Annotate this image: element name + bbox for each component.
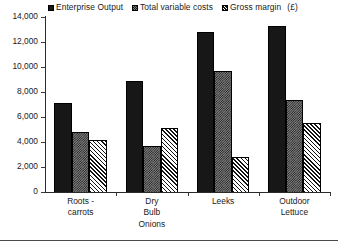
bar-group-bars bbox=[188, 17, 259, 192]
bar-chart: Enterprise Output Total variable costs G… bbox=[0, 0, 338, 248]
bar bbox=[143, 146, 161, 192]
plot-area bbox=[45, 17, 330, 192]
bar bbox=[54, 103, 72, 192]
bar-group bbox=[45, 17, 116, 192]
bar bbox=[214, 71, 232, 192]
y-axis-tick-mark bbox=[41, 192, 45, 193]
y-axis-tick-label: 0 bbox=[33, 186, 38, 197]
bar-group bbox=[116, 17, 187, 192]
legend-label: Total variable costs bbox=[140, 3, 213, 12]
bar bbox=[197, 32, 215, 192]
x-axis-category-label: Roots - carrots bbox=[45, 196, 116, 219]
bar bbox=[161, 128, 179, 192]
y-axis-tick-label: 2,000 bbox=[17, 161, 38, 172]
bar-group-bars bbox=[116, 17, 187, 192]
x-axis-tick-mark bbox=[330, 193, 331, 196]
bar bbox=[268, 26, 286, 192]
legend-item-total-variable-costs: Total variable costs bbox=[132, 3, 213, 12]
bar-group-bars bbox=[45, 17, 116, 192]
bar bbox=[286, 100, 304, 192]
y-axis-tick-label: 14,000 bbox=[12, 11, 38, 22]
bar bbox=[303, 123, 321, 192]
y-axis-tick-label: 8,000 bbox=[17, 86, 38, 97]
legend-unit-note: (£) bbox=[287, 3, 298, 12]
x-axis-category-label: Outdoor Lettuce bbox=[259, 196, 330, 219]
legend-swatch-icon bbox=[132, 5, 138, 11]
y-axis-tick-label: 12,000 bbox=[12, 36, 38, 47]
bar bbox=[72, 132, 90, 192]
y-axis-tick-label: 10,000 bbox=[12, 61, 38, 72]
x-axis-category-label: Leeks bbox=[188, 196, 259, 207]
y-axis-tick-label: 4,000 bbox=[17, 136, 38, 147]
legend-swatch-icon bbox=[222, 5, 228, 11]
bar bbox=[232, 157, 250, 192]
legend-swatch-icon bbox=[48, 5, 54, 11]
page-divider bbox=[0, 240, 338, 241]
bar bbox=[89, 140, 107, 193]
chart-legend: Enterprise Output Total variable costs G… bbox=[48, 1, 298, 14]
x-axis-category-label: Dry Bulb Onions bbox=[116, 196, 187, 230]
bar-group bbox=[188, 17, 259, 192]
legend-label: Enterprise Output bbox=[56, 3, 123, 12]
bar-group bbox=[259, 17, 330, 192]
bar-group-bars bbox=[259, 17, 330, 192]
legend-item-gross-margin: Gross margin (£) bbox=[222, 3, 298, 12]
y-axis-tick-label: 6,000 bbox=[17, 111, 38, 122]
bar bbox=[126, 81, 144, 192]
legend-label: Gross margin bbox=[230, 3, 281, 12]
legend-item-enterprise-output: Enterprise Output bbox=[48, 3, 123, 12]
